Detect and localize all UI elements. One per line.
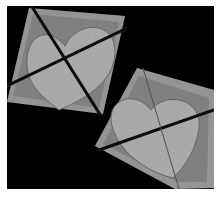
tile-bottom-right <box>95 68 214 189</box>
micrograph-image <box>7 6 214 189</box>
tile-top-left <box>7 6 127 116</box>
image-frame <box>7 6 214 189</box>
